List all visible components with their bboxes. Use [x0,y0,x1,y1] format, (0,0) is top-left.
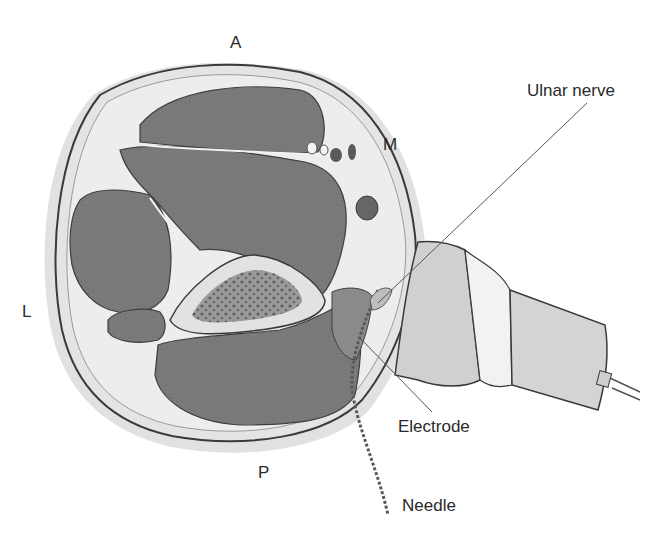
medial-label: M [383,136,397,153]
posterior-label: P [258,464,269,481]
ulnar-nerve-label: Ulnar nerve [527,82,615,99]
lateral-label: L [22,303,31,320]
needle-label: Needle [402,497,456,514]
electrode-label: Electrode [398,418,470,435]
small-lateral-muscle [108,309,165,342]
ultrasound-probe [395,242,640,410]
anterior-label: A [230,34,241,51]
